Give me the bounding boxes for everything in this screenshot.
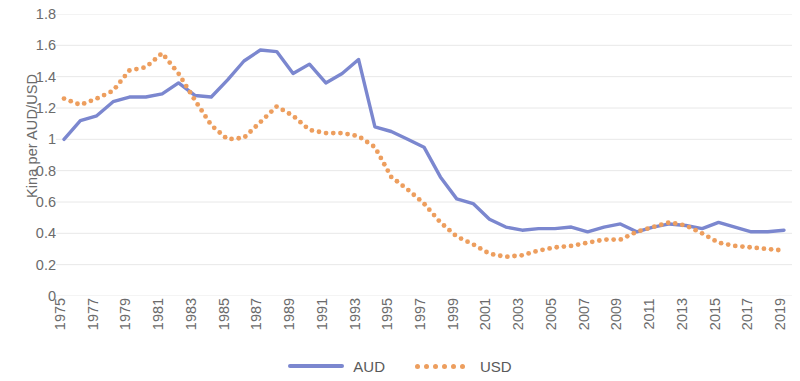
plot-area xyxy=(56,14,792,296)
y-tick-label: 0.8 xyxy=(8,163,56,179)
legend-label: AUD xyxy=(353,358,385,375)
plot-svg xyxy=(56,14,792,296)
y-tick-label: 0.4 xyxy=(8,225,56,241)
x-tick-label: 1989 xyxy=(281,291,297,337)
x-tick-label: 1995 xyxy=(379,291,395,337)
x-tick-label: 2005 xyxy=(543,291,559,337)
y-tick-label: 1.6 xyxy=(8,37,56,53)
x-tick-label: 2003 xyxy=(510,291,526,337)
x-tick-label: 1977 xyxy=(85,291,101,337)
x-tick-label: 1983 xyxy=(183,291,199,337)
x-tick-label: 2011 xyxy=(641,291,657,337)
y-tick-label: 1 xyxy=(8,131,56,147)
dotted-line-swatch-icon xyxy=(415,364,471,369)
legend-item-aud[interactable]: AUD xyxy=(288,358,385,375)
y-tick-label: 0.2 xyxy=(8,257,56,273)
x-tick-label: 1975 xyxy=(52,291,68,337)
x-tick-label: 1987 xyxy=(248,291,264,337)
line-chart: Kina per AUD/USD 1.81.61.41.210.80.60.40… xyxy=(0,0,800,381)
y-axis-tick-labels: 1.81.61.41.210.80.60.40.20 xyxy=(0,0,56,381)
x-tick-label: 2009 xyxy=(608,291,624,337)
y-tick-label: 1.8 xyxy=(8,6,56,22)
legend-label: USD xyxy=(480,358,512,375)
x-tick-label: 1979 xyxy=(117,291,133,337)
y-tick-label: 1.2 xyxy=(8,100,56,116)
x-tick-label: 2013 xyxy=(674,291,690,337)
chart-legend: AUDUSD xyxy=(0,352,800,380)
solid-line-swatch-icon xyxy=(288,364,344,368)
x-tick-label: 2007 xyxy=(576,291,592,337)
x-tick-label: 2017 xyxy=(739,291,755,337)
legend-item-usd[interactable]: USD xyxy=(415,358,512,375)
series-usd xyxy=(62,52,781,259)
x-tick-label: 1991 xyxy=(314,291,330,337)
x-tick-label: 2015 xyxy=(707,291,723,337)
x-tick-label: 1993 xyxy=(347,291,363,337)
x-tick-label: 1985 xyxy=(216,291,232,337)
y-tick-label: 0 xyxy=(8,288,56,304)
x-tick-label: 1997 xyxy=(412,291,428,337)
x-tick-label: 2001 xyxy=(477,291,493,337)
x-tick-label: 1981 xyxy=(150,291,166,337)
x-tick-label: 1999 xyxy=(445,291,461,337)
y-tick-label: 0.6 xyxy=(8,194,56,210)
x-tick-label: 2019 xyxy=(772,291,788,337)
x-axis-tick-labels: 1975197719791981198319851987198919911993… xyxy=(56,296,792,356)
y-tick-label: 1.4 xyxy=(8,69,56,85)
